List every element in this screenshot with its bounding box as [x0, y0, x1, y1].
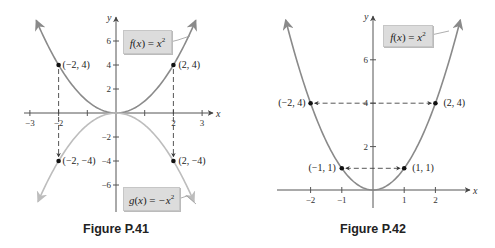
x-tick-label: 2 — [433, 195, 438, 205]
point-label: (−2, 4) — [63, 59, 90, 71]
point-label: (2, −4) — [178, 155, 205, 167]
f-function-label-box: f(x) = x2 — [123, 30, 172, 54]
y-tick-label: 2 — [364, 142, 369, 152]
point-label: (1, 1) — [412, 162, 434, 174]
x-tick-label: −2 — [306, 195, 316, 205]
data-point — [171, 63, 176, 68]
fn-name: f — [390, 31, 393, 43]
y-tick-label: 6 — [364, 55, 369, 65]
y-tick-label: −6 — [101, 180, 111, 190]
data-point — [402, 166, 407, 171]
y-axis-label: y — [363, 11, 369, 22]
x-axis-label: x — [472, 185, 478, 196]
data-point — [308, 101, 313, 106]
x-tick-label: −3 — [25, 118, 35, 128]
x-tick-label: 1 — [402, 195, 407, 205]
x-axis-label: x — [215, 108, 221, 119]
x-tick-label: −1 — [337, 195, 347, 205]
y-tick-label: −2 — [101, 132, 111, 142]
fn-name: f — [130, 37, 133, 49]
point-label: (−2, 4) — [278, 97, 305, 109]
y-axis-label: y — [106, 12, 112, 23]
y-tick-label: 2 — [107, 84, 112, 94]
figure-caption: Figure P.42 — [340, 222, 406, 236]
label-leader — [431, 31, 449, 35]
y-tick-label: 6 — [107, 36, 112, 46]
g-function-label-box: g(x) = −x2 — [123, 187, 180, 211]
fn-name: g — [129, 194, 135, 206]
f-function-label-box: f(x) = x2 — [383, 25, 433, 47]
data-point — [340, 166, 345, 171]
data-point — [433, 101, 438, 106]
data-point — [171, 159, 176, 164]
point-label: (−1, 1) — [308, 162, 335, 174]
data-point — [56, 159, 61, 164]
y-tick-label: 4 — [107, 60, 112, 70]
data-point — [56, 63, 61, 68]
figure-caption: Figure P.41 — [83, 222, 149, 236]
figure-p42: xy−2−112642(−2, 4)(2, 4)(−1, 1)(1, 1) f(… — [250, 0, 495, 248]
figure-p41: xy−3−223642−2−4−6(−2, 4)(2, 4)(−2, −4)(2… — [0, 0, 250, 248]
plot-p42: xy−2−112642(−2, 4)(2, 4)(−1, 1)(1, 1) — [250, 0, 495, 248]
y-tick-label: −4 — [101, 156, 111, 166]
x-tick-label: 3 — [200, 118, 205, 128]
point-label: (−2, −4) — [63, 155, 96, 167]
point-label: (2, 4) — [443, 97, 465, 109]
point-label: (2, 4) — [178, 59, 200, 71]
